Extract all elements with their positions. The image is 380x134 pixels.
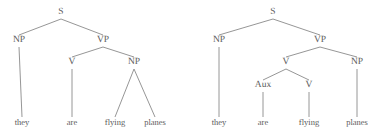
tree-edge xyxy=(286,69,309,80)
tree-edge xyxy=(61,19,103,35)
tree-node-v: V xyxy=(306,81,313,91)
tree-edge xyxy=(273,19,320,35)
tree-node-vp: VP xyxy=(97,36,109,46)
tree-node-np: NP xyxy=(351,58,363,68)
tree-node-v: V xyxy=(69,58,76,68)
tree-edge xyxy=(320,47,357,57)
tree-edges-layer xyxy=(0,0,380,134)
tree-leaf-flying: flying xyxy=(105,118,125,127)
tree-edge xyxy=(134,69,155,117)
tree-node-np: NP xyxy=(213,36,225,46)
tree-edge xyxy=(219,19,273,35)
tree-leaf-are: are xyxy=(67,118,77,127)
tree-leaf-are: are xyxy=(258,118,268,127)
tree-node-aux: Aux xyxy=(255,81,271,91)
parse-tree-figure: SNPVPVNPtheyareflyingplanesSNPVPVNPAuxVt… xyxy=(0,0,380,134)
tree-node-np: NP xyxy=(13,36,25,46)
tree-edge xyxy=(286,47,320,57)
tree-edge xyxy=(19,19,61,35)
tree-node-s: S xyxy=(270,8,275,18)
tree-node-v: V xyxy=(283,58,290,68)
tree-leaf-flying: flying xyxy=(299,118,319,127)
tree-leaf-planes: planes xyxy=(346,118,368,127)
tree-edge xyxy=(72,47,103,57)
tree-node-s: S xyxy=(58,8,63,18)
tree-leaf-they: they xyxy=(212,118,227,127)
tree-leaf-planes: planes xyxy=(144,118,166,127)
tree-edge xyxy=(263,69,286,80)
tree-leaf-they: they xyxy=(15,118,30,127)
tree-node-vp: VP xyxy=(314,36,326,46)
tree-node-np: NP xyxy=(128,58,140,68)
tree-edge xyxy=(19,47,22,117)
tree-edge xyxy=(103,47,134,57)
tree-edge xyxy=(115,69,134,117)
